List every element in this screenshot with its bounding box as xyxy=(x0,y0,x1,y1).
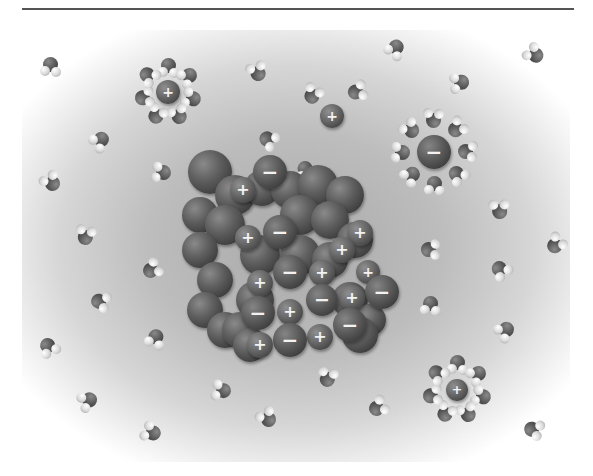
minus-sign-icon: − xyxy=(282,262,299,282)
hydrogen-atom xyxy=(434,109,444,119)
hydrogen-atom xyxy=(430,238,441,249)
hydrogen-atom xyxy=(420,305,430,315)
hydrogen-atom xyxy=(40,66,50,76)
hydrogen-atom xyxy=(357,89,370,102)
plus-sign-icon: + xyxy=(315,265,328,281)
water-molecule-icon xyxy=(343,78,371,106)
hydrogen-atom xyxy=(328,368,339,379)
hydrogen-atom xyxy=(150,172,161,183)
hydrogen-atom xyxy=(499,199,510,210)
hydrogen-atom xyxy=(153,339,165,351)
water-molecule-icon xyxy=(39,55,61,77)
hydrogen-atom xyxy=(431,306,441,316)
minus-sign-icon: − xyxy=(272,222,289,242)
hydrogen-atom xyxy=(390,153,400,163)
hydrogen-atom xyxy=(210,390,221,401)
anion-sphere: − xyxy=(253,155,287,189)
hydrogen-atom xyxy=(391,142,401,152)
water-molecule-icon xyxy=(244,58,273,87)
plus-sign-icon: + xyxy=(253,275,266,291)
hydrogen-atom xyxy=(98,302,110,314)
free-ion: + xyxy=(320,104,344,128)
water-molecule-icon xyxy=(418,238,441,261)
cation-sphere: + xyxy=(307,324,333,350)
water-molecule-icon xyxy=(419,294,441,316)
minus-sign-icon: − xyxy=(250,303,267,323)
plus-sign-icon: + xyxy=(236,182,249,198)
water-molecule-icon xyxy=(484,254,515,285)
cation-sphere: + xyxy=(277,299,303,325)
water-molecule-icon xyxy=(37,167,68,198)
top-rule xyxy=(22,8,574,10)
anion-sphere: − xyxy=(365,275,399,309)
cation-sphere: + xyxy=(247,270,273,296)
plus-sign-icon: + xyxy=(353,225,366,241)
water-molecule-icon xyxy=(130,84,156,110)
cation-sphere: + xyxy=(235,225,261,251)
hydrogen-atom xyxy=(430,249,441,260)
plus-sign-icon: + xyxy=(335,242,348,258)
hydrogen-atom xyxy=(531,430,543,442)
water-molecule-icon xyxy=(87,289,113,315)
water-molecule-icon xyxy=(74,224,99,249)
water-molecule-icon xyxy=(423,108,445,130)
hydrogen-atom xyxy=(435,186,445,196)
water-molecule-icon xyxy=(73,385,103,415)
cation-sphere: + xyxy=(230,177,256,203)
minus-sign-icon: − xyxy=(426,142,443,162)
cation-sphere: + xyxy=(309,260,335,286)
plus-sign-icon: + xyxy=(241,230,254,246)
water-molecule-icon xyxy=(137,255,168,286)
anion-sphere: − xyxy=(333,308,367,342)
minus-sign-icon: − xyxy=(374,282,391,302)
water-molecule-icon xyxy=(33,332,63,362)
water-molecule-icon xyxy=(138,418,166,446)
water-molecule-icon xyxy=(541,230,572,261)
water-molecule-icon xyxy=(141,324,168,351)
hydrogen-atom xyxy=(51,67,61,77)
hydrogen-atom xyxy=(424,185,434,195)
hydrogen-atom xyxy=(144,95,156,107)
dissolution-scene: +−++−+−+++−++−+−+−−+−++ xyxy=(22,30,570,462)
water-molecule-icon xyxy=(520,417,546,443)
plus-sign-icon: + xyxy=(253,337,266,353)
hydrogen-atom xyxy=(467,152,477,162)
minus-sign-icon: − xyxy=(282,330,299,350)
hydrogen-atom xyxy=(468,141,478,151)
minus-sign-icon: − xyxy=(314,290,330,309)
water-molecule-icon xyxy=(423,174,445,196)
water-molecule-icon xyxy=(210,378,234,402)
plus-sign-icon: + xyxy=(452,383,463,396)
minus-sign-icon: − xyxy=(342,315,359,335)
plus-sign-icon: + xyxy=(326,109,338,123)
water-molecule-icon xyxy=(390,141,412,163)
water-molecule-icon xyxy=(298,80,327,109)
anion-sphere: − xyxy=(263,215,297,249)
plus-sign-icon: + xyxy=(345,290,358,306)
water-molecule-icon xyxy=(380,33,410,63)
plus-sign-icon: + xyxy=(313,329,326,345)
hydrated-ion: + xyxy=(446,379,468,401)
cation-sphere: + xyxy=(329,237,355,263)
water-molecule-icon xyxy=(315,365,340,390)
hydrated-ion: − xyxy=(417,135,451,169)
plus-sign-icon: + xyxy=(283,304,296,320)
water-molecule-icon xyxy=(442,160,473,191)
water-molecule-icon xyxy=(253,125,283,155)
water-molecule-icon xyxy=(489,314,520,345)
water-molecule-icon xyxy=(488,198,513,223)
anion-sphere: − xyxy=(241,296,275,330)
water-molecule-icon xyxy=(84,124,115,155)
cation-sphere: + xyxy=(247,332,273,358)
minus-sign-icon: − xyxy=(262,162,279,182)
water-molecule-icon xyxy=(150,160,173,183)
water-molecule-icon xyxy=(363,393,394,424)
cation-sphere: + xyxy=(339,285,365,311)
water-molecule-icon xyxy=(456,141,478,163)
anion-sphere: − xyxy=(306,284,338,316)
anion-sphere: − xyxy=(273,323,307,357)
hydrogen-atom xyxy=(86,226,97,237)
water-molecule-icon xyxy=(520,39,551,70)
hydrogen-atom xyxy=(432,394,444,406)
water-molecule-icon xyxy=(253,403,284,434)
